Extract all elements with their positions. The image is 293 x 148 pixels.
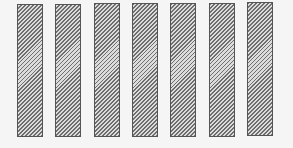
diagram-canvas: [0, 0, 293, 148]
hatched-bar-6: [209, 3, 235, 137]
hatched-bar-5: [170, 3, 196, 137]
hatched-bar-7: [247, 2, 273, 136]
hatched-bar-3: [94, 3, 120, 137]
hatched-bar-2: [55, 4, 81, 137]
hatched-bar-4: [132, 3, 158, 137]
hatched-bar-1: [17, 4, 43, 137]
